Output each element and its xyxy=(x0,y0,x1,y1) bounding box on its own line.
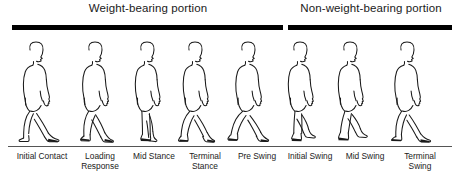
phase-label-terminal-swing: Terminal Swing xyxy=(391,151,449,171)
phase-label-mid-swing: Mid Swing xyxy=(337,151,393,161)
phase-label-initial-swing: Initial Swing xyxy=(279,151,341,161)
figure-mid-swing xyxy=(322,34,386,150)
portion-header: Weight-bearing portion Non-weight-bearin… xyxy=(0,0,460,34)
phase-labels: Initial Contact Loading Response Mid Sta… xyxy=(0,151,460,184)
weight-bearing-title: Weight-bearing portion xyxy=(44,2,252,14)
non-weight-bearing-title: Non-weight-bearing portion xyxy=(288,2,454,14)
gait-figures-strip xyxy=(0,34,460,150)
gait-cycle-diagram: Weight-bearing portion Non-weight-bearin… xyxy=(0,0,460,184)
phase-label-pre-swing: Pre Swing xyxy=(229,151,285,161)
phase-label-initial-contact: Initial Contact xyxy=(4,151,80,161)
weight-bearing-bar xyxy=(12,25,283,30)
ground-line xyxy=(8,146,452,147)
figure-initial-contact xyxy=(6,34,70,150)
non-weight-bearing-bar xyxy=(288,25,452,30)
phase-label-terminal-stance: Terminal Stance xyxy=(177,151,233,171)
figure-terminal-swing xyxy=(378,34,442,150)
phase-label-loading-response: Loading Response xyxy=(72,151,128,171)
phase-label-mid-stance: Mid Stance xyxy=(126,151,182,161)
